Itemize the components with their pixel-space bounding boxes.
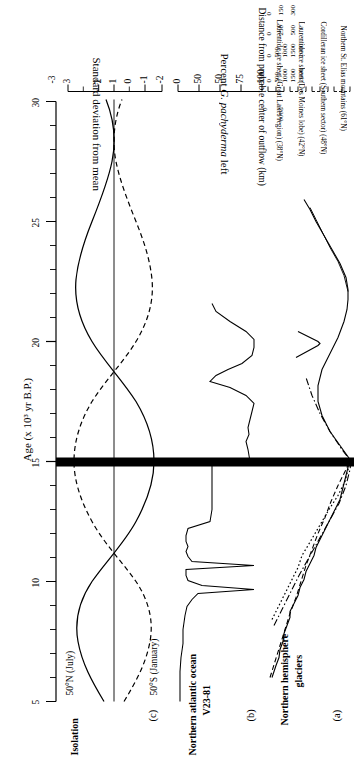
subaxis-1-tick-0: 0 bbox=[261, 107, 268, 111]
sa2-n2000: 2000 bbox=[298, 43, 305, 57]
sa2-n1500: 1500 bbox=[290, 43, 297, 57]
sa2-n1000: 1000 bbox=[282, 43, 289, 57]
sa4-n0: 0 bbox=[266, 12, 273, 16]
panel-b-tick-0: 0 bbox=[173, 78, 183, 83]
panel-c-tick-m1: -1 bbox=[140, 75, 150, 83]
sa1-n500: 500 bbox=[274, 72, 281, 83]
sa1-n2000: 2000 bbox=[298, 68, 305, 82]
sa3-n0: 0 bbox=[266, 32, 273, 36]
age-tick-20: 20 bbox=[32, 338, 42, 348]
panel-c-tick-1: 1 bbox=[109, 78, 119, 83]
age-tick-5: 5 bbox=[32, 699, 42, 704]
subaxis-1-tick-2000: 2000 bbox=[277, 107, 284, 121]
sa2-n0: 0 bbox=[266, 54, 273, 58]
sa1-n1500: 1500 bbox=[290, 68, 297, 82]
event-bar-14ka bbox=[56, 457, 354, 466]
age-tick-25: 25 bbox=[32, 218, 42, 228]
panel-c-tick-m2: -2 bbox=[156, 75, 166, 83]
rotated-figure: Age (x 10³ yr B.P.) bbox=[0, 0, 354, 761]
panel-b-north-atlantic: Northern atlantic ocean V23-81 (b) 0 50 bbox=[172, 0, 268, 761]
sa1-n1000: 1000 bbox=[282, 68, 289, 82]
sa3-n500: 500 bbox=[290, 25, 297, 36]
panel-b-tick-25: 50 bbox=[194, 74, 204, 84]
sa4-n300: 300 bbox=[290, 5, 297, 16]
panel-c-axis-title: Standard deviation from mean bbox=[91, 57, 102, 191]
panel-a-nh-glaciers: Northern hemisphere glaciers (a) bbox=[268, 0, 354, 761]
panel-b-tick-75: 75 bbox=[236, 74, 246, 84]
panel-b-axis-title-tail: left bbox=[219, 157, 231, 174]
sa3-n250: 250 bbox=[278, 25, 285, 36]
panel-b-value-axis: 0 50 50 75 100 Percent G. pachyderma lef… bbox=[172, 0, 268, 97]
age-tick-10: 10 bbox=[32, 578, 42, 588]
panel-b-axis-title: Percent G. pachyderma left bbox=[219, 53, 230, 174]
panel-c-tick-0: 0 bbox=[124, 78, 134, 83]
age-tick-15: 15 bbox=[32, 458, 42, 468]
panel-c-value-axis: 3 2 1 0 -1 -2 -3 Standard deviation from… bbox=[62, 0, 170, 97]
panel-c-tick-m3: -3 bbox=[48, 75, 58, 83]
sa2-n500: 500 bbox=[274, 47, 281, 58]
panel-b-axis-title-italic: G. pachyderma bbox=[219, 89, 231, 157]
panel-c-tick-3: 3 bbox=[63, 78, 73, 83]
shared-age-axis: Age (x 10³ yr B.P.) bbox=[0, 0, 70, 761]
sa4-n150: 150 bbox=[278, 5, 285, 16]
panel-b-axis-title-plain: Percent bbox=[219, 53, 231, 89]
panel-c-isolation: Isolation (c) 50°N (July) 50°S (January) bbox=[62, 0, 170, 761]
sa1-n0: 0 bbox=[266, 79, 273, 83]
figure-stage: Age (x 10³ yr B.P.) bbox=[0, 0, 354, 761]
age-tick-30: 30 bbox=[32, 98, 42, 108]
panel-a-tick-numbers: 0 500 1000 1500 2000 0 500 1000 1500 200… bbox=[264, 0, 354, 97]
